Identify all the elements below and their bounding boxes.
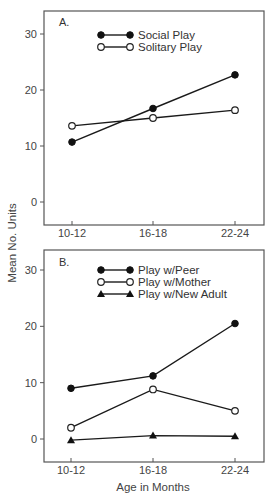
legend-item: Play w/New Adult xyxy=(97,288,228,300)
legend-marker-icon xyxy=(127,32,134,39)
data-point xyxy=(150,386,157,393)
series-social-play xyxy=(69,72,239,146)
data-point xyxy=(232,320,239,327)
data-point xyxy=(69,139,76,146)
legend-marker-icon xyxy=(127,44,134,51)
legend-label: Play w/Mother xyxy=(138,276,211,288)
series-line xyxy=(71,389,235,427)
legend-label: Play w/New Adult xyxy=(138,288,228,300)
series-play-w-new-adult xyxy=(67,432,239,444)
figure-canvas: 010203010-1216-1822-24A.Social PlaySolit… xyxy=(0,0,273,496)
legend-marker-icon xyxy=(98,32,105,39)
y-tick-label: 0 xyxy=(31,433,37,445)
x-tick-label: 16-18 xyxy=(139,464,167,476)
x-tick-label: 16-18 xyxy=(139,227,167,239)
x-tick-label: 22-24 xyxy=(221,464,249,476)
data-point xyxy=(232,408,239,415)
series-play-w-peer xyxy=(68,320,239,391)
legend-marker-icon xyxy=(98,44,105,51)
y-axis-title: Mean No. Units xyxy=(6,203,18,283)
legend-marker-icon xyxy=(127,279,134,286)
data-point xyxy=(150,105,157,112)
legend-item: Social Play xyxy=(98,29,195,41)
data-point xyxy=(69,123,76,130)
y-tick-label: 10 xyxy=(25,377,37,389)
panel-label: A. xyxy=(59,16,69,28)
legend-label: Play w/Peer xyxy=(138,264,200,276)
legend-label: Social Play xyxy=(138,29,195,41)
x-axis-title: Age in Months xyxy=(116,481,190,493)
x-tick-label: 10-12 xyxy=(58,227,86,239)
data-point xyxy=(150,373,157,380)
data-point xyxy=(150,115,157,122)
legend-item: Solitary Play xyxy=(98,41,202,53)
legend-marker-icon xyxy=(98,279,105,286)
legend-marker-icon xyxy=(127,267,134,274)
y-tick-label: 20 xyxy=(25,84,37,96)
y-tick-label: 30 xyxy=(25,28,37,40)
panel-label: B. xyxy=(59,256,69,268)
x-tick-label: 10-12 xyxy=(57,464,85,476)
y-tick-label: 20 xyxy=(25,320,37,332)
series-play-w-mother xyxy=(68,386,239,431)
chart-panel-a: 010203010-1216-1822-24A.Social PlaySolit… xyxy=(25,11,264,239)
data-point xyxy=(68,424,75,431)
legend-label: Solitary Play xyxy=(138,41,202,53)
legend-item: Play w/Mother xyxy=(98,276,211,288)
legend-marker-icon xyxy=(98,267,105,274)
x-tick-label: 22-24 xyxy=(221,227,249,239)
data-point xyxy=(232,107,239,114)
chart-panel-b: 010203010-1216-1822-24B.Play w/PeerPlay … xyxy=(25,250,264,476)
data-point xyxy=(68,385,75,392)
y-tick-label: 10 xyxy=(25,140,37,152)
y-tick-label: 30 xyxy=(25,264,37,276)
y-tick-label: 0 xyxy=(31,196,37,208)
legend-item: Play w/Peer xyxy=(98,264,200,276)
data-point xyxy=(232,72,239,79)
